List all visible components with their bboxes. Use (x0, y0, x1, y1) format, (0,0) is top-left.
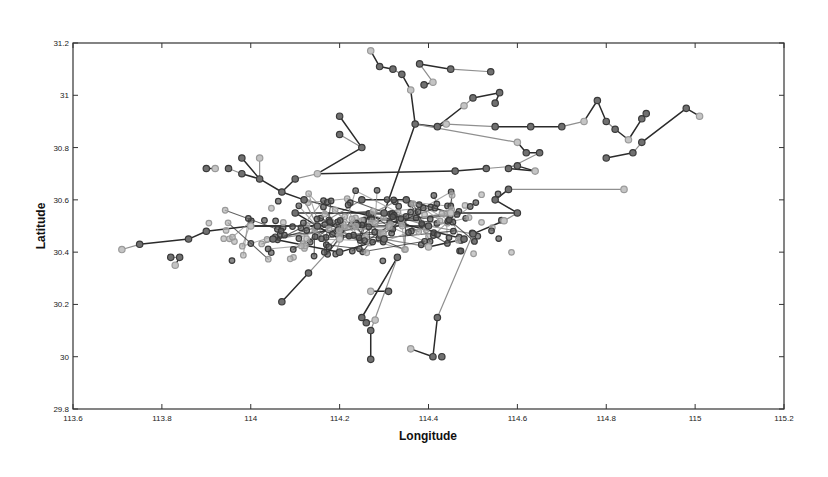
network-node (403, 197, 409, 203)
network-node (439, 354, 445, 360)
cluster-node (449, 192, 455, 198)
network-node (594, 97, 600, 103)
cluster-node (230, 234, 236, 240)
y-axis-title: Latitude (34, 202, 48, 249)
cluster-node (262, 218, 268, 224)
network-node (488, 69, 494, 75)
network-node (336, 113, 342, 119)
network-node (683, 105, 689, 111)
network-node (514, 139, 520, 145)
cluster-node (380, 258, 386, 264)
cluster-node (437, 218, 443, 224)
network-node (279, 189, 285, 195)
cluster-node (396, 203, 402, 209)
cluster-node (416, 229, 422, 235)
network-node (408, 346, 414, 352)
cluster-node (290, 247, 296, 253)
cluster-node (353, 223, 359, 229)
cluster-node (374, 188, 380, 194)
network-node (416, 61, 422, 67)
network-node (603, 118, 609, 124)
cluster-node (495, 191, 501, 197)
cluster-node (311, 253, 317, 259)
network-node (212, 165, 218, 171)
cluster-node (296, 203, 302, 209)
network-node (305, 270, 311, 276)
network-node (359, 144, 365, 150)
cluster-node (349, 216, 355, 222)
cluster-node (332, 207, 338, 213)
network-node (376, 63, 382, 69)
network-node (461, 103, 467, 109)
network-node (443, 121, 449, 127)
x-tick-label: 114 (244, 414, 257, 423)
cluster-node (304, 228, 310, 234)
cluster-node (370, 239, 376, 245)
x-tick-label: 113.8 (152, 414, 172, 423)
cluster-node (298, 243, 304, 249)
network-node (314, 171, 320, 177)
cluster-node (479, 220, 485, 226)
cluster-node (328, 198, 334, 204)
network-node (528, 123, 534, 129)
cluster-node (408, 209, 414, 215)
network-node (514, 163, 520, 169)
cluster-node (454, 212, 460, 218)
cluster-node (372, 220, 378, 226)
network-node (603, 155, 609, 161)
network-node (394, 254, 400, 260)
cluster-node (278, 228, 284, 234)
network-node (612, 126, 618, 132)
cluster-node (473, 200, 479, 206)
cluster-node (362, 238, 368, 244)
cluster-node (304, 236, 310, 242)
cluster-node (269, 205, 275, 211)
cluster-node (229, 258, 235, 264)
network-node (368, 288, 374, 294)
network-node (505, 186, 511, 192)
network-node (621, 186, 627, 192)
cluster-node (241, 252, 247, 258)
y-tick-label: 31 (60, 91, 69, 100)
network-node (425, 244, 431, 250)
cluster-node (422, 212, 428, 218)
network-node (368, 327, 374, 333)
network-node (336, 249, 342, 255)
network-node (256, 176, 262, 182)
cluster-node (471, 251, 477, 257)
y-tick-label: 30.6 (53, 196, 69, 205)
cluster-node (353, 188, 359, 194)
network-node (270, 236, 276, 242)
cluster-node (319, 236, 325, 242)
network-node (496, 89, 502, 95)
network-node (501, 218, 507, 224)
network-node (368, 356, 374, 362)
network-node (390, 66, 396, 72)
cluster-node (349, 248, 355, 254)
network-node (514, 210, 520, 216)
cluster-node (266, 256, 272, 262)
cluster-node (390, 214, 396, 220)
cluster-node (419, 221, 425, 227)
cluster-node (427, 216, 433, 222)
network-node (239, 155, 245, 161)
x-axis-title: Longitude (399, 429, 457, 443)
y-tick-label: 30.4 (53, 248, 69, 257)
x-tick-label: 115 (689, 414, 702, 423)
network-node (119, 246, 125, 252)
network-node (421, 82, 427, 88)
x-tick-label: 114.8 (597, 414, 617, 423)
cluster-node (446, 217, 452, 223)
cluster-node (356, 235, 362, 241)
network-node (176, 254, 182, 260)
network-node (430, 79, 436, 85)
y-tick-label: 30.2 (53, 300, 69, 309)
cluster-node (466, 215, 472, 221)
cluster-node (259, 241, 265, 247)
cluster-node (391, 197, 397, 203)
cluster-node (287, 256, 293, 262)
cluster-node (273, 218, 279, 224)
network-node (434, 123, 440, 129)
network-node (559, 123, 565, 129)
figure-background (0, 0, 828, 477)
